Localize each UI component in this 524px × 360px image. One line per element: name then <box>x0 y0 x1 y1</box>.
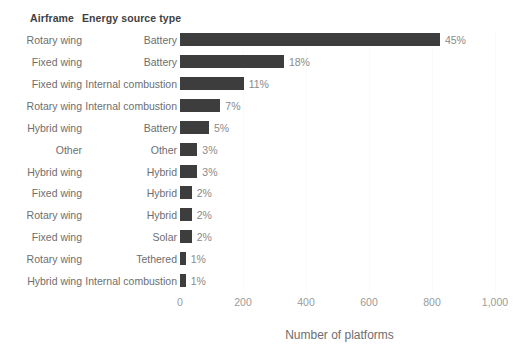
x-axis-tick-label: 1,000 <box>482 296 508 308</box>
bar-row[interactable]: Hybrid wingInternal combustion1% <box>0 271 524 295</box>
bar[interactable] <box>180 186 192 199</box>
row-label-energy-source: Hybrid <box>84 187 177 200</box>
row-label-energy-source: Tethered <box>84 253 177 266</box>
row-label-energy-source: Internal combustion <box>84 100 177 113</box>
row-label-energy-source: Hybrid <box>84 166 177 179</box>
x-axis-title-wrap: Number of platforms <box>0 328 524 342</box>
row-label-airframe: Fixed wing <box>0 187 82 200</box>
bar-value-label: 1% <box>191 275 206 288</box>
bar[interactable] <box>180 33 440 46</box>
row-label-airframe: Hybrid wing <box>0 166 82 179</box>
bar-row[interactable]: Fixed wingInternal combustion11% <box>0 74 524 98</box>
x-axis-tick-label: 600 <box>360 296 378 308</box>
bar-value-label: 7% <box>225 100 240 113</box>
x-axis-tick-label: 800 <box>423 296 441 308</box>
row-label-airframe: Rotary wing <box>0 34 82 47</box>
bar-rows: Rotary wingBattery45%Fixed wingBattery18… <box>0 30 524 293</box>
row-label-airframe: Fixed wing <box>0 78 82 91</box>
row-label-energy-source: Battery <box>84 56 177 69</box>
bar[interactable] <box>180 208 192 221</box>
x-axis-tick-label: 400 <box>297 296 315 308</box>
header-airframe: Airframe <box>30 12 74 24</box>
bar-row[interactable]: Rotary wingBattery45% <box>0 30 524 54</box>
bar-value-label: 18% <box>289 56 310 69</box>
row-label-airframe: Other <box>0 144 82 157</box>
x-axis-title: Number of platforms <box>285 328 394 342</box>
bar-row[interactable]: Fixed wingBattery18% <box>0 52 524 76</box>
bar-row[interactable]: Hybrid wingBattery5% <box>0 118 524 142</box>
bar-row[interactable]: Hybrid wingHybrid3% <box>0 162 524 186</box>
row-label-energy-source: Internal combustion <box>84 78 177 91</box>
bar-value-label: 1% <box>191 253 206 266</box>
bar-row[interactable]: OtherOther3% <box>0 140 524 164</box>
row-label-airframe: Hybrid wing <box>0 122 82 135</box>
bar-value-label: 2% <box>197 231 212 244</box>
bar-value-label: 3% <box>202 166 217 179</box>
column-headers: Airframe Energy source type <box>0 12 178 28</box>
bar[interactable] <box>180 143 197 156</box>
bar-row[interactable]: Rotary wingHybrid2% <box>0 205 524 229</box>
bar-value-label: 3% <box>202 144 217 157</box>
bar[interactable] <box>180 274 186 287</box>
bar[interactable] <box>180 252 186 265</box>
row-label-airframe: Rotary wing <box>0 209 82 222</box>
row-label-airframe: Rotary wing <box>0 100 82 113</box>
row-label-energy-source: Battery <box>84 122 177 135</box>
bar-value-label: 2% <box>197 209 212 222</box>
x-axis-tick-label: 200 <box>234 296 252 308</box>
row-label-energy-source: Battery <box>84 34 177 47</box>
x-axis-tick-label: 0 <box>177 296 183 308</box>
bar-value-label: 45% <box>445 34 466 47</box>
row-label-airframe: Fixed wing <box>0 231 82 244</box>
bar-value-label: 2% <box>197 187 212 200</box>
bar[interactable] <box>180 77 244 90</box>
bar-row[interactable]: Rotary wingInternal combustion7% <box>0 96 524 120</box>
bar-row[interactable]: Fixed wingHybrid2% <box>0 183 524 207</box>
row-label-energy-source: Solar <box>84 231 177 244</box>
bar-chart: Airframe Energy source type Rotary wingB… <box>0 0 524 360</box>
bar[interactable] <box>180 55 284 68</box>
row-label-energy-source: Hybrid <box>84 209 177 222</box>
bar[interactable] <box>180 99 220 112</box>
row-label-airframe: Fixed wing <box>0 56 82 69</box>
x-axis: 02004006008001,000 <box>180 293 495 313</box>
row-label-energy-source: Internal combustion <box>84 275 177 288</box>
bar-row[interactable]: Rotary wingTethered1% <box>0 249 524 273</box>
bar[interactable] <box>180 165 197 178</box>
bar[interactable] <box>180 121 209 134</box>
row-label-airframe: Hybrid wing <box>0 275 82 288</box>
row-label-energy-source: Other <box>84 144 177 157</box>
bar-row[interactable]: Fixed wingSolar2% <box>0 227 524 251</box>
bar[interactable] <box>180 230 192 243</box>
bar-value-label: 11% <box>249 78 269 91</box>
row-label-airframe: Rotary wing <box>0 253 82 266</box>
header-energy-source-type: Energy source type <box>82 12 181 24</box>
bar-value-label: 5% <box>214 122 229 135</box>
